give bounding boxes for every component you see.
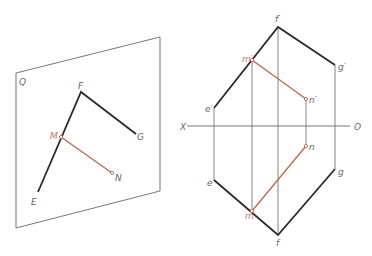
- plane-q-label: Q: [19, 77, 26, 87]
- point-n: [304, 144, 307, 147]
- label-M: M: [50, 131, 58, 141]
- point-m: [59, 135, 62, 138]
- label-m: m: [245, 211, 254, 221]
- axis-x-label: X: [179, 122, 187, 132]
- label-e-prime: e′: [205, 104, 213, 114]
- label-g-prime: g′: [338, 62, 346, 72]
- label-N: N: [115, 173, 122, 183]
- label-g: g: [338, 167, 344, 177]
- label-f-prime: f′: [275, 14, 280, 24]
- label-F: F: [78, 81, 84, 91]
- projection-view: X O f′ g′ e′ m′ n′ f g e m n: [179, 14, 361, 248]
- axis-o-label: O: [354, 122, 361, 132]
- label-e: e: [207, 178, 213, 188]
- label-f: f: [276, 238, 281, 248]
- front-view-efg: [214, 27, 335, 108]
- front-view-mn: [252, 60, 306, 99]
- label-n-prime: n′: [309, 95, 317, 105]
- line-mn: [61, 137, 112, 173]
- point-n: [110, 171, 113, 174]
- descriptive-geometry-diagram: Q F G E M N X O f′ g′ e′ m′ n′: [0, 0, 372, 256]
- label-n: n: [309, 142, 315, 152]
- top-view-mn: [252, 146, 306, 211]
- top-view-efg: [214, 169, 335, 235]
- label-G: G: [137, 132, 144, 142]
- point-n-prime: [304, 97, 307, 100]
- label-m-prime: m′: [242, 54, 253, 64]
- label-E: E: [31, 197, 37, 207]
- pictorial-view: Q F G E M N: [16, 37, 160, 228]
